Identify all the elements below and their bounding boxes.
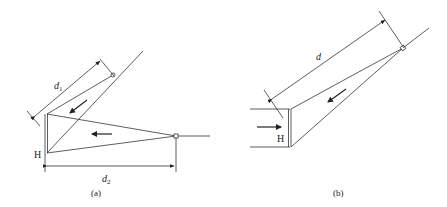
wall-h-a <box>45 114 48 153</box>
ray-top-b <box>291 48 403 109</box>
right-node-a <box>174 134 178 138</box>
dimension-label-d1: d1 <box>54 80 63 93</box>
dimension-d <box>264 11 404 118</box>
wall-label-b: H <box>277 133 284 144</box>
diagonal-axis-a <box>47 51 143 153</box>
panel-a <box>27 51 210 172</box>
axis-b <box>403 28 429 48</box>
ray-bottom-b <box>291 48 403 147</box>
diagram-canvas: H d1 d2 (a) H d (b <box>0 0 447 207</box>
panel-b <box>250 11 429 147</box>
dimension-label-d: d <box>316 51 322 62</box>
wall-label-a: H <box>34 149 41 160</box>
flow-arrow-diagonal-b <box>328 89 346 102</box>
dimension-label-d2: d2 <box>102 173 111 186</box>
ray-bottom-a <box>47 136 176 153</box>
caption-b: (b) <box>333 188 344 198</box>
dimension-d2 <box>45 138 176 172</box>
flow-arrow-diagonal-a <box>70 100 87 113</box>
dimension-d1 <box>27 59 114 126</box>
wall-h-b <box>289 109 292 147</box>
caption-a: (a) <box>91 188 101 198</box>
